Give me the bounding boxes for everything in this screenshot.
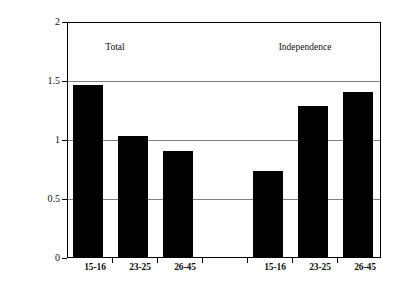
bar-total-15-16[interactable] [73,85,103,258]
bar-total-23-25[interactable] [118,136,148,258]
y-axis-tick-labels: 2 1.5 1 0.5 0 [26,0,60,287]
y-tick-label-1_5: 1.5 [26,76,60,86]
bar-total-26-45[interactable] [163,151,193,258]
y-tick-label-0: 0 [26,253,60,263]
bar-independence-15-16[interactable] [253,171,283,258]
y-tick-label-1: 1 [26,135,60,145]
bar-independence-26-45[interactable] [343,92,373,258]
y-tick-mark-0 [62,258,67,259]
bar-independence-23-25[interactable] [298,106,328,258]
group-label-independence: Independence [250,42,360,52]
bar-chart-figure: Odds of females relative to males (males… [0,0,400,287]
y-tick-label-2: 2 [26,17,60,27]
x-tick-label-independence-26-45: 26-45 [335,262,395,272]
bar-series [67,22,381,258]
group-label-total: Total [80,42,150,52]
y-tick-label-0_5: 0.5 [26,194,60,204]
x-tick-label-total-26-45: 26-45 [155,262,215,272]
